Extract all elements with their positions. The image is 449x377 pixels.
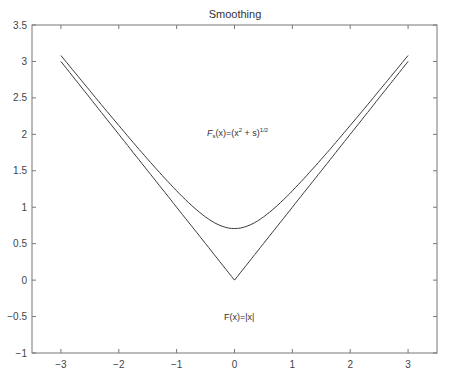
y-tick-label: −0.5 [7,311,27,322]
x-tick-label: −1 [171,359,183,370]
y-tick-label: 1.5 [13,165,27,176]
y-tick-label: −1 [16,348,28,359]
y-tick-label: 1 [21,202,27,213]
x-tick-label: 2 [347,359,353,370]
y-tick-label: 2.5 [13,92,27,103]
abs-function-label: F(x)=|x| [224,312,254,322]
y-tick-label: 3 [21,56,27,67]
y-tick-label: 0 [21,275,27,286]
chart-title: Smoothing [209,8,262,20]
x-tick-label: −2 [113,359,125,370]
x-tick-label: 1 [290,359,296,370]
x-tick-label: 0 [232,359,238,370]
plot-area [32,25,437,353]
x-tick-label: 3 [405,359,411,370]
x-tick-label: −3 [55,359,67,370]
abs-curve [61,61,408,280]
smoothing-chart: Smoothing −3−2−10123−1−0.500.511.522.533… [0,0,449,377]
axis-ticks: −3−2−10123−1−0.500.511.522.533.5 [7,20,437,371]
annotations: Fs(x)=(x2 + s)1/2 F(x)=|x| [207,127,269,322]
y-tick-label: 2 [21,129,27,140]
y-tick-label: 0.5 [13,238,27,249]
smooth-curve [61,56,408,229]
smooth-function-label: Fs(x)=(x2 + s)1/2 [207,127,269,139]
y-tick-label: 3.5 [13,20,27,31]
plot-curves [61,56,408,281]
